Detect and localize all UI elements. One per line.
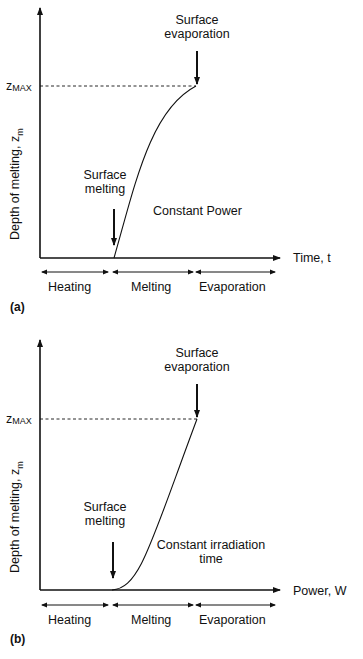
panel-a: Depth of melting, zm zMAX Time, t Surfac… <box>0 0 363 330</box>
phase-melting-label: Melting <box>131 280 171 294</box>
zmax-label: zMAX <box>6 79 32 93</box>
y-axis-label: Depth of melting, zm <box>8 461 25 573</box>
panel-b-plot <box>0 330 363 659</box>
phase-melting-label: Melting <box>131 613 171 627</box>
phase-evaporation-label: Evaporation <box>199 280 266 294</box>
y-axis-label: Depth of melting, zm <box>8 128 25 240</box>
panel-b: Depth of melting, zm zMAX Power, W Surfa… <box>0 330 363 659</box>
phase-heating-label: Heating <box>48 280 91 294</box>
surface-melting-label: Surface melting <box>75 168 135 196</box>
condition-label: Constant irradiation time <box>146 538 276 566</box>
panel-tag: (b) <box>10 632 25 646</box>
surface-melting-label: Surface melting <box>75 500 135 528</box>
panel-tag: (a) <box>10 300 25 314</box>
phase-heating-label: Heating <box>48 613 91 627</box>
zmax-label: zMAX <box>6 412 32 426</box>
x-axis-label: Power, W <box>293 584 347 598</box>
phase-evaporation-label: Evaporation <box>199 613 266 627</box>
condition-label: Constant Power <box>153 204 242 218</box>
surface-evaporation-label: Surface evaporation <box>155 346 239 374</box>
x-axis-label: Time, t <box>293 251 331 265</box>
surface-evaporation-label: Surface evaporation <box>155 13 239 41</box>
